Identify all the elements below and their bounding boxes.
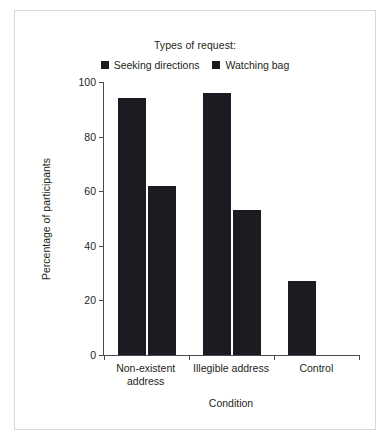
x-axis-label-line: address: [103, 375, 188, 388]
legend-entry-seeking-directions: Seeking directions: [101, 59, 200, 71]
x-axis-tick: [104, 355, 105, 360]
y-axis-title: Percentage of participants: [39, 82, 53, 356]
legend-swatch-icon: [101, 61, 109, 69]
x-axis-tick: [274, 355, 275, 360]
y-axis-tick-label: 80: [84, 131, 96, 143]
figure-panel: Types of request: Seeking directions Wat…: [14, 10, 376, 430]
legend-swatch-icon: [212, 61, 220, 69]
x-axis-tick: [359, 355, 360, 360]
y-axis-tick-label: 100: [78, 76, 96, 88]
bar-groups: [104, 82, 359, 355]
y-axis-title-text: Percentage of participants: [40, 158, 52, 280]
y-axis-tick-label: 40: [84, 240, 96, 252]
x-axis-label-control: Control: [274, 362, 359, 388]
bar-group-control: [274, 82, 359, 355]
legend-label: Watching bag: [225, 59, 289, 71]
legend-title: Types of request:: [15, 39, 375, 51]
bar-seeking-directions: [118, 98, 146, 355]
plot-area: 020406080100: [103, 82, 359, 356]
y-axis-tick-label: 0: [90, 349, 96, 361]
bar-group-non-existent-address: [104, 82, 189, 355]
y-axis-tick-label: 20: [84, 294, 96, 306]
bar-watching-bag: [233, 210, 261, 355]
bar-seeking-directions: [203, 93, 231, 355]
x-axis-tick: [189, 355, 190, 360]
x-axis-label-line: Illegible address: [188, 362, 273, 375]
legend-label: Seeking directions: [114, 59, 200, 71]
x-axis-label-line: Non-existent: [103, 362, 188, 375]
chart-legend: Types of request: Seeking directions Wat…: [15, 39, 375, 71]
bar-watching-bag: [148, 186, 176, 355]
legend-entry-watching-bag: Watching bag: [212, 59, 289, 71]
x-axis-label-illegible-address: Illegible address: [188, 362, 273, 388]
x-axis-title: Condition: [103, 397, 359, 409]
y-axis-tick-label: 60: [84, 185, 96, 197]
bar-group-illegible-address: [189, 82, 274, 355]
bar-seeking-directions: [288, 281, 316, 355]
x-axis-label-non-existent-address: Non-existentaddress: [103, 362, 188, 388]
legend-entries: Seeking directions Watching bag: [15, 59, 375, 71]
x-axis-category-labels: Non-existentaddress Illegible address Co…: [103, 362, 359, 388]
x-axis-label-line: Control: [274, 362, 359, 375]
